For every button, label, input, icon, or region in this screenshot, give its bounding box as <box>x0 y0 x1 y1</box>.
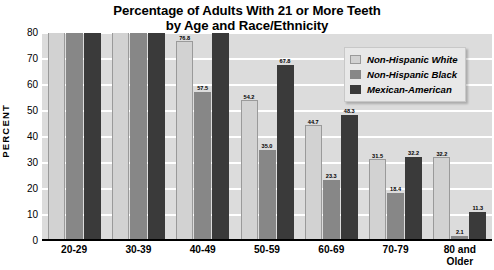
x-axis-tick-label-line: 30-39 <box>106 244 170 256</box>
y-axis-tick-label: 30 <box>14 158 38 168</box>
bar: 96.5 <box>48 33 65 241</box>
x-axis-tick-label: 40-49 <box>171 244 235 256</box>
bar: 99.2 <box>84 33 101 241</box>
chart-page: Percentage of Adults With 21 or More Tee… <box>0 0 494 270</box>
legend-item: Mexican-American <box>350 82 458 97</box>
y-axis-ticks: 01020304050607080 <box>14 33 38 241</box>
bar-group: 99.281.586.0 <box>112 33 165 241</box>
bar: 99.2 <box>112 33 129 241</box>
bar: 32.2 <box>433 157 450 241</box>
legend: Non-Hispanic WhiteNon-Hispanic BlackMexi… <box>344 47 466 102</box>
legend-item-label: Mexican-American <box>367 84 452 95</box>
legend-item-label: Non-Hispanic Black <box>367 69 457 80</box>
bar-value-label: 35.0 <box>262 143 273 149</box>
bar: 86.0 <box>148 33 165 241</box>
x-axis-tick-label: 20-29 <box>42 244 106 256</box>
bar: 11.3 <box>469 212 486 241</box>
bar-value-label: 18.4 <box>390 186 401 192</box>
x-axis-tick-label: 80 andOlder <box>428 244 492 267</box>
page-title: Percentage of Adults With 21 or More Tee… <box>0 3 494 33</box>
x-axis-tick-label-line: 60-69 <box>299 244 363 256</box>
x-axis-line <box>42 239 492 241</box>
bar-value-label: 54.2 <box>244 94 255 100</box>
bar: 54.2 <box>241 100 258 241</box>
y-axis-tick-label: 20 <box>14 184 38 194</box>
legend-swatch-icon <box>350 55 361 64</box>
y-axis-tick-label: 0 <box>14 236 38 246</box>
bar-value-label: 2.1 <box>456 229 464 235</box>
chart-title-line-2: by Age and Race/Ethnicity <box>0 18 494 33</box>
bar-value-label: 57.5 <box>197 85 208 91</box>
legend-item: Non-Hispanic Black <box>350 67 458 82</box>
x-axis-tick-label: 70-79 <box>363 244 427 256</box>
x-axis-tick-label-line: 80 and <box>428 244 492 256</box>
bar: 57.5 <box>194 92 211 242</box>
bar: 44.7 <box>305 125 322 241</box>
bar: 31.5 <box>369 159 386 241</box>
legend-swatch-icon <box>350 70 361 79</box>
legend-item-label: Non-Hispanic White <box>367 54 458 65</box>
bar-value-label: 76.8 <box>179 35 190 41</box>
x-axis-tick-label-line: Older <box>428 256 492 268</box>
y-axis-tick-label: 80 <box>14 28 38 38</box>
x-axis-tick-label-line: 50-59 <box>235 244 299 256</box>
bar: 32.2 <box>405 157 422 241</box>
bar: 81.5 <box>130 33 147 241</box>
legend-item: Non-Hispanic White <box>350 52 458 67</box>
y-axis-title: PERCENT <box>1 104 15 158</box>
bar-value-label: 32.2 <box>436 151 447 157</box>
bar: 85.2 <box>212 33 229 241</box>
y-axis-tick-label: 50 <box>14 106 38 116</box>
x-axis-tick-label-line: 20-29 <box>42 244 106 256</box>
x-axis-ticks: 20-2930-3940-4950-5960-6970-7980 andOlde… <box>42 244 492 270</box>
y-axis-tick-label: 60 <box>14 80 38 90</box>
x-axis-tick-label: 30-39 <box>106 244 170 256</box>
bar-value-label: 44.7 <box>308 119 319 125</box>
bar-group: 54.235.067.8 <box>241 33 294 241</box>
x-axis-tick-label: 50-59 <box>235 244 299 256</box>
bar: 35.0 <box>259 150 276 241</box>
bar: 18.4 <box>387 193 404 241</box>
bar-group: 96.597.899.2 <box>48 33 101 241</box>
bar-value-label: 67.8 <box>280 58 291 64</box>
bar: 23.3 <box>323 180 340 241</box>
bar: 67.8 <box>277 65 294 241</box>
bar-group: 76.857.585.2 <box>176 33 229 241</box>
x-axis-tick-label-line: 40-49 <box>171 244 235 256</box>
bar-value-label: 23.3 <box>326 173 337 179</box>
y-axis-tick-label: 70 <box>14 54 38 64</box>
bar: 76.8 <box>176 41 193 241</box>
chart-title-line-1: Percentage of Adults With 21 or More Tee… <box>113 3 381 18</box>
y-axis-tick-label: 10 <box>14 210 38 220</box>
bar-value-label: 11.3 <box>473 205 484 211</box>
legend-swatch-icon <box>350 85 361 94</box>
y-axis-tick-label: 40 <box>14 132 38 142</box>
bar: 97.8 <box>66 33 83 241</box>
bar-value-label: 48.3 <box>344 108 355 114</box>
bar: 48.3 <box>341 115 358 241</box>
bar-value-label: 32.2 <box>408 150 419 156</box>
x-axis-tick-label: 60-69 <box>299 244 363 256</box>
x-axis-tick-label-line: 70-79 <box>363 244 427 256</box>
bar-value-label: 31.5 <box>372 153 383 159</box>
